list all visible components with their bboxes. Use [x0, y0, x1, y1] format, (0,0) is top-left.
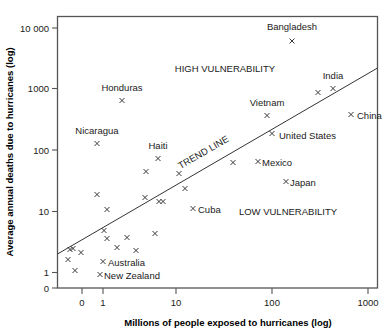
marker-new-zealand — [98, 272, 103, 277]
point-label-australia: Australia — [108, 257, 146, 268]
x-axis-tick-labels: 0 1 10 100 1000 — [79, 297, 378, 308]
x-tick-label-0: 0 — [79, 297, 84, 308]
marker-unlabeled — [177, 171, 182, 176]
x-axis-ticks — [82, 288, 368, 294]
y-axis-tick-labels: 10 000 1000 100 10 1 0 — [20, 23, 49, 294]
marker-unlabeled — [115, 245, 120, 250]
point-label-honduras: Honduras — [101, 82, 142, 93]
marker-unlabeled — [73, 268, 78, 273]
marker-honduras — [120, 98, 125, 103]
y-tick-label-10000: 10 000 — [20, 23, 49, 34]
plot-frame — [58, 17, 378, 289]
y-tick-label-100: 100 — [33, 145, 49, 156]
data-point-labels: Bangladesh India China Vietnam United St… — [75, 21, 382, 281]
marker-haiti — [156, 156, 161, 161]
data-point-markers — [66, 39, 354, 278]
x-tick-label-10: 10 — [171, 297, 182, 308]
marker-unlabeled — [231, 160, 236, 165]
chart-svg: 10 000 1000 100 10 1 0 0 1 10 100 1000 M… — [0, 0, 392, 333]
point-label-cuba: Cuba — [198, 204, 221, 215]
marker-nicaragua — [95, 141, 100, 146]
x-axis-title: Millions of people exposed to hurricanes… — [124, 317, 331, 328]
marker-india — [331, 86, 336, 91]
marker-mexico — [256, 159, 261, 164]
point-label-india: India — [323, 70, 344, 81]
marker-unlabeled — [144, 169, 149, 174]
marker-unlabeled — [102, 228, 107, 233]
marker-unlabeled — [134, 248, 139, 253]
marker-unlabeled — [161, 199, 166, 204]
y-tick-label-10: 10 — [38, 206, 49, 217]
marker-unlabeled — [79, 250, 84, 255]
point-label-china: China — [357, 110, 383, 121]
point-label-japan: Japan — [290, 177, 316, 188]
marker-vietnam — [265, 113, 270, 118]
marker-bangladesh — [290, 39, 295, 44]
marker-unlabeled — [183, 186, 188, 191]
marker-china — [349, 112, 354, 117]
point-label-vietnam: Vietnam — [250, 97, 285, 108]
marker-unlabeled — [153, 231, 158, 236]
trend-line-label: TREND LINE — [176, 133, 230, 171]
marker-unlabeled — [316, 90, 321, 95]
point-label-united-states: United States — [279, 130, 336, 141]
point-label-bangladesh: Bangladesh — [267, 21, 317, 32]
marker-cuba — [191, 206, 196, 211]
marker-australia — [101, 259, 106, 264]
y-tick-label-1: 1 — [44, 267, 49, 278]
y-axis-ticks — [52, 28, 58, 288]
y-tick-label-0: 0 — [44, 283, 49, 294]
marker-unlabeled — [125, 235, 130, 240]
x-tick-label-1: 1 — [100, 297, 105, 308]
trend-line — [58, 68, 378, 254]
y-axis-title: Average annual deaths due to hurricanes … — [4, 47, 15, 256]
marker-unlabeled — [105, 207, 110, 212]
marker-unlabeled — [66, 257, 71, 262]
point-label-mexico: Mexico — [262, 157, 292, 168]
x-tick-label-100: 100 — [264, 297, 280, 308]
high-vulnerability-label: HIGH VULNERABILITY — [175, 63, 276, 74]
marker-united-states — [270, 131, 275, 136]
marker-unlabeled — [95, 192, 100, 197]
point-label-haiti: Haiti — [148, 140, 167, 151]
y-tick-label-1000: 1000 — [28, 83, 49, 94]
point-label-new-zealand: New Zealand — [104, 270, 160, 281]
marker-unlabeled — [143, 195, 148, 200]
point-label-nicaragua: Nicaragua — [75, 125, 119, 136]
marker-unlabeled — [105, 236, 110, 241]
marker-japan — [284, 179, 289, 184]
hurricane-vulnerability-scatter-chart: 10 000 1000 100 10 1 0 0 1 10 100 1000 M… — [0, 0, 392, 333]
x-tick-label-1000: 1000 — [357, 297, 378, 308]
low-vulnerability-label: LOW VULNERABILITY — [239, 206, 338, 217]
